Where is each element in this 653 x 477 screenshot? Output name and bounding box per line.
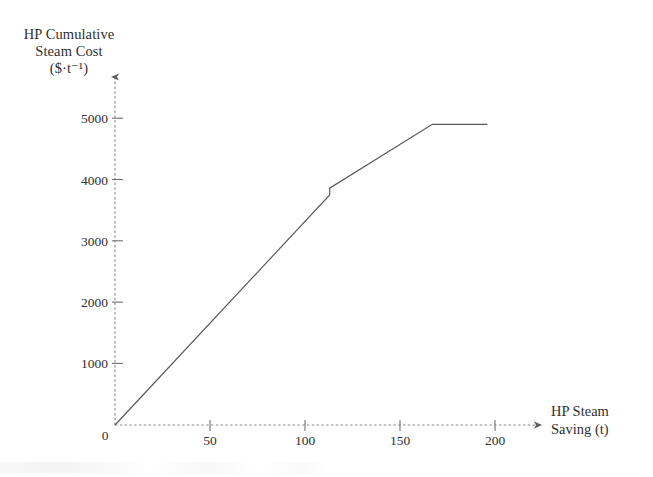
data-series-line bbox=[115, 124, 487, 425]
chart-figure: HP Cumulative Steam Cost ($·t⁻¹) HP Stea… bbox=[0, 0, 653, 477]
plot-canvas bbox=[0, 0, 653, 477]
y-axis-ticks bbox=[112, 118, 123, 363]
scan-artifact bbox=[0, 462, 330, 473]
